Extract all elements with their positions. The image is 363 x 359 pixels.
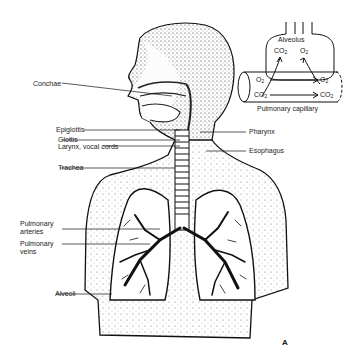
inset-co2-alveolus: CO2 — [274, 47, 287, 56]
inset-capillary-label: Pulmonary capillary — [257, 105, 318, 113]
figure-letter: A — [282, 338, 288, 347]
inset-co2-right: CO2 — [320, 91, 333, 100]
respiratory-diagram — [0, 0, 363, 359]
label-larynx: Larynx, vocal cords — [58, 143, 118, 151]
label-pulmonary-veins: Pulmonary veins — [20, 240, 53, 256]
label-epiglottis: Epiglottis — [56, 126, 84, 134]
label-alveoli: Alveoli — [55, 290, 76, 298]
label-pharynx: Pharynx — [249, 128, 275, 136]
inset-co2-left: CO2 — [254, 91, 267, 100]
gas-exchange-inset — [238, 22, 342, 102]
inset-alveolus-label: Alveolus — [278, 36, 304, 44]
label-pulmonary-arteries: Pulmonary arteries — [20, 220, 53, 236]
inset-o2-left: O2 — [256, 76, 264, 85]
label-esophagus: Esophagus — [249, 147, 284, 155]
inset-o2-right: O2 — [320, 76, 328, 85]
label-conchae: Conchae — [33, 80, 61, 88]
trachea — [175, 130, 189, 230]
inset-o2-alveolus: O2 — [300, 47, 308, 56]
label-trachea: Trachea — [58, 164, 83, 172]
